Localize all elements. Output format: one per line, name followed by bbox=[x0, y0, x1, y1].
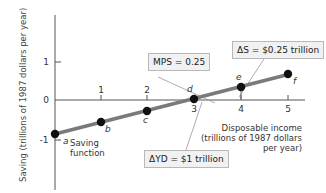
y-tick-label: 1 bbox=[43, 57, 49, 67]
x-axis-label-line: Disposable income bbox=[201, 123, 302, 133]
x-tick-label: 3 bbox=[191, 104, 197, 114]
delta-yd-callout: ΔYD = $1 trillion bbox=[144, 150, 229, 168]
x-axis-label: Disposable income (trillions of 1987 dol… bbox=[201, 123, 302, 153]
function-label-line: Saving bbox=[70, 138, 105, 148]
point-b bbox=[97, 118, 105, 126]
delta-s-callout: ΔS = $0.25 trillion bbox=[232, 41, 324, 59]
point-a bbox=[51, 130, 59, 138]
function-label-line: function bbox=[70, 148, 105, 158]
x-tick-label: 4 bbox=[238, 104, 244, 114]
x-tick-label: 5 bbox=[285, 104, 291, 114]
point-label-c: c bbox=[143, 115, 148, 125]
point-label-f: f bbox=[293, 76, 298, 86]
point-label-e: e bbox=[236, 72, 242, 82]
point-label-d: d bbox=[187, 84, 193, 94]
x-tick-label: 2 bbox=[144, 85, 150, 95]
mps-callout: MPS = 0.25 bbox=[148, 53, 210, 71]
y-tick-label: -1 bbox=[40, 135, 49, 145]
point-f bbox=[284, 70, 292, 78]
delta-s-leader-line bbox=[239, 56, 266, 97]
point-d bbox=[190, 95, 198, 103]
saving-function-label: Saving function bbox=[70, 138, 105, 158]
x-tick-label: 1 bbox=[98, 85, 104, 95]
y-tick-label: 0 bbox=[43, 95, 49, 105]
y-axis-label: Saving (trillions of 1987 dollars per ye… bbox=[18, 12, 28, 182]
point-c bbox=[143, 107, 151, 115]
point-e bbox=[237, 83, 245, 91]
point-label-a: a bbox=[63, 136, 69, 146]
x-axis-label-line: (trillions of 1987 dollars bbox=[201, 133, 302, 143]
point-label-b: b bbox=[105, 124, 111, 134]
